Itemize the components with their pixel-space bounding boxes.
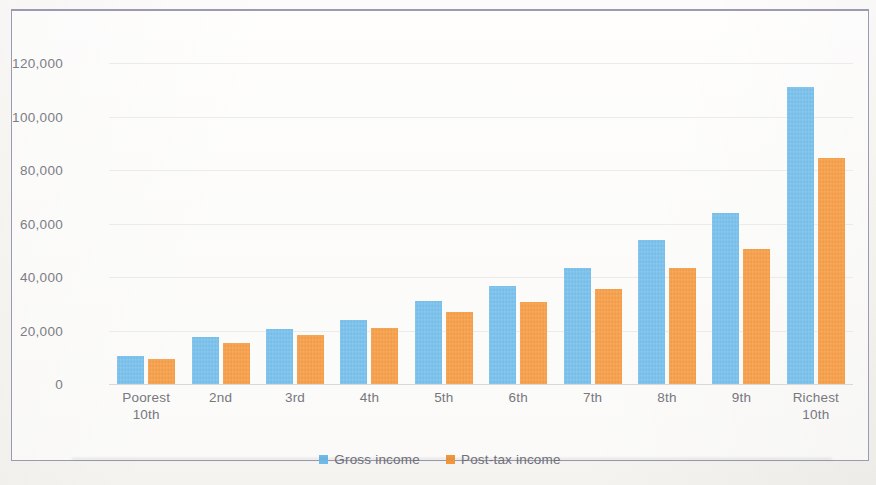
bar-post-tax-income[interactable] bbox=[297, 335, 324, 384]
bar-gross-income[interactable] bbox=[712, 213, 739, 384]
bar-gross-income[interactable] bbox=[787, 87, 814, 384]
bar-groups bbox=[109, 63, 853, 384]
x-axis-tick-label: 8th bbox=[630, 390, 704, 436]
x-axis-tick-label: 4th bbox=[332, 390, 406, 436]
bar-post-tax-income[interactable] bbox=[743, 249, 770, 384]
y-axis-tick-label: 100,000 bbox=[0, 109, 63, 124]
x-axis-tick-label: 2nd bbox=[183, 390, 257, 436]
bar-gross-income[interactable] bbox=[117, 356, 144, 384]
bar-gross-income[interactable] bbox=[192, 337, 219, 384]
bar-gross-income[interactable] bbox=[638, 240, 665, 384]
bar-group bbox=[332, 63, 406, 384]
bar-post-tax-income[interactable] bbox=[371, 328, 398, 384]
chart-frame: 020,00040,00060,00080,000100,000120,000 … bbox=[11, 9, 869, 461]
bar-group bbox=[407, 63, 481, 384]
y-axis-tick-label: 60,000 bbox=[0, 216, 63, 231]
bar-group bbox=[630, 63, 704, 384]
y-axis-tick-label: 40,000 bbox=[0, 270, 63, 285]
bar-group bbox=[704, 63, 778, 384]
bar-post-tax-income[interactable] bbox=[446, 312, 473, 384]
x-axis-tick-label: 7th bbox=[555, 390, 629, 436]
y-axis-tick-label: 20,000 bbox=[0, 323, 63, 338]
bar-group bbox=[555, 63, 629, 384]
bar-post-tax-income[interactable] bbox=[818, 158, 845, 384]
y-axis-tick-label: 120,000 bbox=[0, 56, 63, 71]
bar-gross-income[interactable] bbox=[489, 286, 516, 384]
bar-post-tax-income[interactable] bbox=[148, 359, 175, 384]
plot-area: 020,00040,00060,00080,000100,000120,000 bbox=[109, 63, 853, 384]
x-axis-tick-label: Poorest 10th bbox=[109, 390, 183, 436]
x-axis-tick-label: 3rd bbox=[258, 390, 332, 436]
bar-group bbox=[481, 63, 555, 384]
bar-post-tax-income[interactable] bbox=[669, 268, 696, 384]
bar-post-tax-income[interactable] bbox=[223, 343, 250, 384]
x-axis-tick-label: Richest 10th bbox=[779, 390, 853, 436]
gridline bbox=[109, 384, 853, 385]
scan-smudge bbox=[72, 458, 832, 460]
bar-post-tax-income[interactable] bbox=[520, 302, 547, 384]
x-axis-tick-labels: Poorest 10th2nd3rd4th5th6th7th8th9thRich… bbox=[109, 390, 853, 436]
bar-post-tax-income[interactable] bbox=[595, 289, 622, 384]
bar-gross-income[interactable] bbox=[266, 329, 293, 384]
y-axis-tick-label: 0 bbox=[0, 377, 63, 392]
y-axis-tick-label: 80,000 bbox=[0, 163, 63, 178]
bar-gross-income[interactable] bbox=[415, 301, 442, 384]
x-axis-tick-label: 9th bbox=[704, 390, 778, 436]
bar-gross-income[interactable] bbox=[564, 268, 591, 384]
bar-group bbox=[779, 63, 853, 384]
x-axis-tick-label: 6th bbox=[481, 390, 555, 436]
bar-group bbox=[109, 63, 183, 384]
bar-group bbox=[183, 63, 257, 384]
bar-group bbox=[258, 63, 332, 384]
x-axis-tick-label: 5th bbox=[407, 390, 481, 436]
bar-gross-income[interactable] bbox=[340, 320, 367, 384]
